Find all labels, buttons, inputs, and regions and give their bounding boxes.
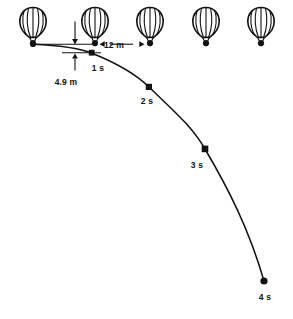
label-3s: 3 s xyxy=(191,160,203,170)
marker-t0 xyxy=(30,41,36,47)
label-4-9m: 4.9 m xyxy=(55,77,78,87)
balloon-t4 xyxy=(248,8,274,46)
drop-measure-arrow xyxy=(72,22,78,71)
label-2s: 2 s xyxy=(141,96,153,106)
diagram-canvas: 12 m 4.9 m 1 s 2 s 3 s 4 s xyxy=(0,0,293,319)
marker-t1 xyxy=(89,50,95,56)
balloon-t2 xyxy=(137,8,163,46)
label-12m: 12 m xyxy=(104,40,124,50)
projectile-diagram: 12 m 4.9 m 1 s 2 s 3 s 4 s xyxy=(0,0,293,319)
label-1s: 1 s xyxy=(92,63,104,73)
label-4s: 4 s xyxy=(259,292,271,302)
diagram-labels: 12 m 4.9 m 1 s 2 s 3 s 4 s xyxy=(55,40,272,302)
marker-t4 xyxy=(260,277,267,284)
balloon-t3 xyxy=(193,8,219,46)
marker-t3 xyxy=(202,146,209,153)
marker-t2 xyxy=(146,84,152,90)
balloon-row xyxy=(20,8,274,46)
balloon-t0 xyxy=(20,8,46,46)
